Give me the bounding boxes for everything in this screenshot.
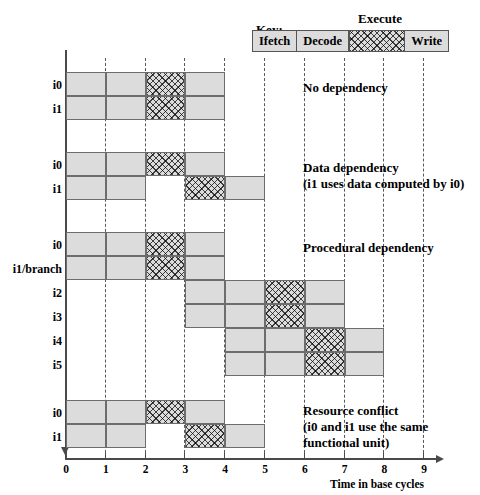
stage-cell-execute <box>305 328 345 352</box>
x-tick-label-4: 4 <box>215 463 235 475</box>
stage-cell-decode <box>106 72 146 96</box>
x-tick-label-3: 3 <box>175 463 195 475</box>
stage-cell-execute <box>185 176 225 200</box>
annotation-line: (i1 uses data computed by i0) <box>303 176 464 192</box>
x-tick-label-7: 7 <box>335 463 355 475</box>
row-label-procedural-dependency-i1-branch: i1/branch <box>0 262 62 277</box>
x-tick-5 <box>264 453 265 458</box>
legend-cell-execute <box>349 31 405 51</box>
stage-cell-decode <box>225 304 265 328</box>
row-label-procedural-dependency-i4: i4 <box>0 334 62 349</box>
stage-cell-decode <box>106 176 146 200</box>
stage-cell-ifetch <box>66 424 106 448</box>
stage-cell-execute <box>146 72 186 96</box>
annotation-procedural-dependency: Procedural dependency <box>303 240 434 256</box>
stage-cell-decode <box>265 352 305 376</box>
stage-cell-write <box>225 176 265 200</box>
x-tick-2 <box>145 453 146 458</box>
stage-cell-execute <box>146 152 186 176</box>
stage-cell-write <box>185 72 225 96</box>
stage-cell-execute <box>185 424 225 448</box>
row-label-resource-conflict-i1: i1 <box>0 430 62 445</box>
stage-cell-ifetch <box>66 72 106 96</box>
stage-cell-ifetch <box>66 96 106 120</box>
stage-cell-write <box>305 280 345 304</box>
row-label-procedural-dependency-i3: i3 <box>0 310 62 325</box>
stage-cell-decode <box>106 424 146 448</box>
x-tick-label-0: 0 <box>56 463 76 475</box>
stage-cell-decode <box>106 96 146 120</box>
x-tick-label-5: 5 <box>255 463 275 475</box>
x-tick-6 <box>304 453 305 458</box>
stage-cell-execute <box>146 96 186 120</box>
stage-cell-ifetch <box>225 352 265 376</box>
row-label-procedural-dependency-i0: i0 <box>0 238 62 253</box>
stage-cell-write <box>185 96 225 120</box>
stage-cell-ifetch <box>66 232 106 256</box>
gridline-cycle-6 <box>304 58 305 458</box>
stage-cell-ifetch <box>185 304 225 328</box>
annotation-data-dependency: Data dependency(i1 uses data computed by… <box>303 160 464 192</box>
stage-cell-decode <box>106 400 146 424</box>
annotation-line: Resource conflict <box>303 403 428 419</box>
annotation-line: Procedural dependency <box>303 240 434 256</box>
legend-cell-ifetch: Ifetch <box>253 31 297 51</box>
stage-cell-write <box>185 152 225 176</box>
stage-cell-write <box>185 232 225 256</box>
gridline-cycle-8 <box>383 58 384 458</box>
x-tick-7 <box>344 453 345 458</box>
row-label-resource-conflict-i0: i0 <box>0 406 62 421</box>
stage-cell-ifetch <box>185 280 225 304</box>
stage-cell-write <box>305 304 345 328</box>
x-tick-label-9: 9 <box>414 463 434 475</box>
stage-cell-execute <box>146 232 186 256</box>
legend-cell-decode: Decode <box>297 31 349 51</box>
figure-canvas: Key: Execute Ifetch Decode Write 0123456… <box>0 0 480 495</box>
x-tick-9 <box>423 453 424 458</box>
annotation-resource-conflict: Resource conflict(i0 and i1 use the same… <box>303 403 428 451</box>
stage-cell-write <box>345 352 385 376</box>
legend-cell-write: Write <box>405 31 448 51</box>
annotation-line: (i0 and i1 use the same <box>303 419 428 435</box>
row-label-no-dependency-i1: i1 <box>0 102 62 117</box>
legend: Ifetch Decode Write <box>252 30 449 52</box>
gridline-cycle-9 <box>423 58 424 458</box>
x-axis-line <box>65 458 437 460</box>
stage-cell-write <box>225 424 265 448</box>
stage-cell-decode <box>106 152 146 176</box>
execute-caption: Execute <box>358 11 402 27</box>
stage-cell-decode <box>265 328 305 352</box>
stage-cell-ifetch <box>66 176 106 200</box>
stage-cell-decode <box>106 232 146 256</box>
gridline-cycle-5 <box>264 58 265 458</box>
stage-cell-write <box>185 256 225 280</box>
stage-cell-ifetch <box>66 256 106 280</box>
annotation-line: No dependency <box>303 80 388 96</box>
stage-cell-execute <box>146 400 186 424</box>
stage-cell-write <box>185 400 225 424</box>
stage-cell-decode <box>106 256 146 280</box>
x-tick-label-8: 8 <box>374 463 394 475</box>
x-tick-3 <box>184 453 185 458</box>
stage-cell-execute <box>265 280 305 304</box>
annotation-line: Data dependency <box>303 160 464 176</box>
row-label-procedural-dependency-i2: i2 <box>0 286 62 301</box>
x-tick-label-2: 2 <box>136 463 156 475</box>
row-label-data-dependency-i0: i0 <box>0 158 62 173</box>
stage-cell-execute <box>305 352 345 376</box>
x-tick-0 <box>65 453 66 458</box>
annotation-no-dependency: No dependency <box>303 80 388 96</box>
row-label-no-dependency-i0: i0 <box>0 78 62 93</box>
gridline-cycle-7 <box>344 58 345 458</box>
x-axis-caption: Time in base cycles <box>330 478 424 490</box>
row-label-data-dependency-i1: i1 <box>0 182 62 197</box>
stage-cell-decode <box>225 280 265 304</box>
x-tick-8 <box>383 453 384 458</box>
stage-cell-ifetch <box>225 328 265 352</box>
stage-cell-execute <box>146 256 186 280</box>
stage-cell-execute <box>265 304 305 328</box>
stage-cell-write <box>345 328 385 352</box>
annotation-line: functional unit) <box>303 435 428 451</box>
x-axis-arrow <box>436 455 444 463</box>
x-tick-4 <box>224 453 225 458</box>
